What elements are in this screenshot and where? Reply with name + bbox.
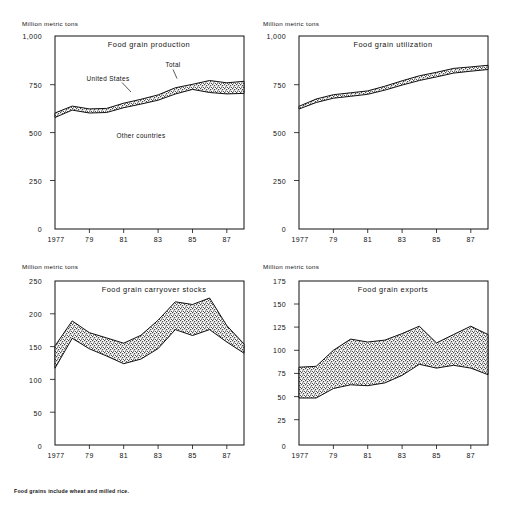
x-axis-ticks	[89, 445, 226, 449]
svg-text:1977: 1977	[291, 236, 308, 243]
series-band-united-states	[299, 326, 488, 398]
y-axis-unit-label: Million metric tons	[22, 263, 78, 270]
svg-text:87: 87	[467, 452, 476, 459]
svg-text:150: 150	[29, 344, 42, 351]
svg-text:83: 83	[398, 236, 407, 243]
annotation-other-countries: Other countries	[117, 132, 166, 139]
svg-text:150: 150	[273, 301, 286, 308]
chart-panel-food-grain-carryover-stocks: Million metric tons 250 200 150 100 50 0…	[0, 256, 253, 512]
svg-text:81: 81	[363, 452, 372, 459]
plot-frame	[55, 281, 244, 445]
svg-text:0: 0	[38, 226, 42, 233]
svg-text:175: 175	[273, 278, 286, 285]
svg-text:500: 500	[273, 130, 286, 137]
svg-text:85: 85	[432, 452, 441, 459]
svg-text:83: 83	[398, 452, 407, 459]
svg-text:83: 83	[154, 452, 163, 459]
chart-panel-food-grain-exports: Million metric tons 175 150 125 100 75 5…	[253, 256, 506, 512]
svg-text:500: 500	[29, 130, 42, 137]
svg-text:250: 250	[29, 178, 42, 185]
svg-text:25: 25	[277, 417, 286, 424]
chart-title: Food grain exports	[358, 285, 429, 294]
chart-title: Food grain utilization	[353, 40, 432, 49]
chart-panel-food-grain-production: Million metric tons 1,000 750 500 250 0 …	[0, 0, 253, 256]
x-axis-ticks	[333, 445, 470, 449]
svg-text:87: 87	[223, 236, 232, 243]
svg-text:1,000: 1,000	[22, 33, 42, 40]
svg-text:79: 79	[329, 236, 338, 243]
annotation-united-states: United States	[87, 75, 130, 82]
svg-text:125: 125	[273, 324, 286, 331]
svg-text:83: 83	[154, 236, 163, 243]
svg-text:79: 79	[85, 452, 94, 459]
series-band-united-states	[55, 298, 244, 368]
svg-text:250: 250	[273, 178, 286, 185]
y-axis-tick-labels: 250 200 150 100 50 0	[29, 278, 42, 450]
svg-text:85: 85	[188, 236, 197, 243]
y-axis-unit-label: Million metric tons	[263, 20, 319, 27]
svg-text:1977: 1977	[291, 452, 308, 459]
y-axis-tick-labels: 1,000 750 500 250 0	[22, 33, 42, 233]
svg-text:85: 85	[432, 236, 441, 243]
svg-text:75: 75	[277, 370, 286, 377]
svg-text:1,000: 1,000	[266, 33, 286, 40]
svg-text:85: 85	[188, 452, 197, 459]
y-axis-unit-label: Million metric tons	[22, 20, 78, 27]
svg-text:200: 200	[29, 311, 42, 318]
x-axis-tick-labels: 1977 79 81 83 85 87	[291, 236, 475, 243]
series-band-united-states	[299, 65, 488, 109]
svg-text:81: 81	[363, 236, 372, 243]
food-grain-carryover-stocks-svg: Million metric tons 250 200 150 100 50 0…	[0, 256, 253, 512]
svg-text:79: 79	[329, 452, 338, 459]
svg-text:87: 87	[467, 236, 476, 243]
chart-title: Food grain carryover stocks	[102, 285, 207, 294]
chart-panel-food-grain-utilization: Million metric tons 1,000 750 500 250 0 …	[253, 0, 506, 256]
y-axis-ticks	[294, 85, 299, 181]
svg-text:1977: 1977	[47, 236, 64, 243]
svg-text:0: 0	[282, 443, 286, 450]
y-axis-ticks	[50, 85, 55, 181]
x-axis-tick-labels: 1977 79 81 83 85 87	[291, 452, 475, 459]
leader-line-united-states	[122, 83, 131, 93]
svg-text:50: 50	[277, 394, 286, 401]
svg-text:100: 100	[29, 377, 42, 384]
x-axis-tick-labels: 1977 79 81 83 85 87	[47, 236, 231, 243]
svg-text:100: 100	[273, 347, 286, 354]
svg-text:750: 750	[29, 82, 42, 89]
svg-text:0: 0	[282, 226, 286, 233]
svg-text:750: 750	[273, 82, 286, 89]
svg-text:79: 79	[85, 236, 94, 243]
svg-text:0: 0	[38, 443, 42, 450]
svg-text:81: 81	[119, 452, 128, 459]
x-axis-ticks	[333, 229, 470, 233]
figure-footnote: Food grains include wheat and milled ric…	[14, 488, 129, 494]
y-axis-tick-labels: 1,000 750 500 250 0	[266, 33, 286, 233]
chart-title: Food grain production	[108, 40, 190, 49]
svg-text:250: 250	[29, 278, 42, 285]
y-axis-ticks	[50, 314, 55, 412]
y-axis-tick-labels: 175 150 125 100 75 50 25 0	[273, 278, 286, 450]
food-grain-utilization-svg: Million metric tons 1,000 750 500 250 0 …	[253, 0, 506, 256]
svg-text:81: 81	[119, 236, 128, 243]
x-axis-tick-labels: 1977 79 81 83 85 87	[47, 452, 231, 459]
x-axis-ticks	[89, 229, 226, 233]
y-axis-ticks	[294, 304, 299, 420]
plot-frame	[299, 36, 488, 229]
food-grain-production-svg: Million metric tons 1,000 750 500 250 0 …	[0, 0, 253, 256]
svg-text:50: 50	[33, 410, 42, 417]
svg-text:1977: 1977	[47, 452, 64, 459]
food-grain-exports-svg: Million metric tons 175 150 125 100 75 5…	[253, 256, 506, 512]
series-band-united-states	[55, 81, 244, 118]
leader-line-total	[173, 70, 177, 79]
y-axis-unit-label: Million metric tons	[263, 263, 319, 270]
svg-text:87: 87	[223, 452, 232, 459]
annotation-total: Total	[165, 61, 180, 68]
